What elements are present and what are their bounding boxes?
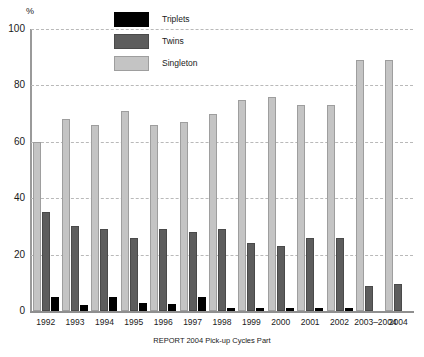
chart-legend: TripletsTwinsSingleton bbox=[114, 10, 244, 76]
y-axis-unit-label: % bbox=[26, 6, 34, 16]
x-tick-label-1997: 1997 bbox=[178, 317, 207, 327]
bar-group-2000 bbox=[268, 29, 294, 311]
y-tick-label-60: 60 bbox=[1, 137, 25, 147]
x-tick-label-1993: 1993 bbox=[60, 317, 89, 327]
x-tick-label-1995: 1995 bbox=[119, 317, 148, 327]
legend-item-twins[interactable]: Twins bbox=[114, 32, 244, 54]
x-tick-label-2004: 2004 bbox=[384, 317, 413, 327]
chart-caption: REPORT 2004 Pick-up Cycles Part bbox=[0, 336, 424, 345]
x-tick-label-2000: 2000 bbox=[266, 317, 295, 327]
bar-group-2004 bbox=[385, 29, 411, 311]
bar-twins-1998[interactable] bbox=[218, 229, 226, 311]
y-tick-label-40: 40 bbox=[1, 193, 25, 203]
x-axis-line bbox=[30, 311, 414, 313]
bar-group-1993 bbox=[62, 29, 88, 311]
legend-item-triplets[interactable]: Triplets bbox=[114, 10, 244, 32]
bar-triplets-1997[interactable] bbox=[198, 297, 206, 311]
bar-singleton-1998[interactable] bbox=[209, 114, 217, 311]
x-tick-label-1994: 1994 bbox=[90, 317, 119, 327]
bar-singleton-1997[interactable] bbox=[180, 122, 188, 311]
bar-singleton-1995[interactable] bbox=[121, 111, 129, 311]
bar-singleton-2003-2004[interactable] bbox=[356, 60, 364, 311]
legend-label-triplets: Triplets bbox=[162, 14, 190, 24]
legend-swatch-triplets bbox=[114, 12, 149, 27]
bar-twins-2003-2004[interactable] bbox=[365, 286, 373, 311]
y-axis-tick-labels: 020406080100 bbox=[0, 0, 25, 357]
x-tick-label-2003-2004: 2003–2004 bbox=[354, 317, 383, 327]
bar-twins-2002[interactable] bbox=[336, 238, 344, 311]
bar-singleton-1994[interactable] bbox=[91, 125, 99, 311]
bar-group-1992 bbox=[33, 29, 59, 311]
bar-twins-1997[interactable] bbox=[189, 232, 197, 311]
y-tick-label-0: 0 bbox=[1, 306, 25, 316]
y-tick-label-20: 20 bbox=[1, 250, 25, 260]
bar-singleton-1992[interactable] bbox=[33, 142, 41, 311]
bar-twins-1996[interactable] bbox=[159, 229, 167, 311]
bar-triplets-1996[interactable] bbox=[168, 304, 176, 311]
bar-twins-1994[interactable] bbox=[100, 229, 108, 311]
legend-label-twins: Twins bbox=[162, 36, 184, 46]
bar-triplets-1995[interactable] bbox=[139, 303, 147, 311]
bar-singleton-2004[interactable] bbox=[385, 60, 393, 311]
y-tick-label-80: 80 bbox=[1, 80, 25, 90]
x-tick-label-2002: 2002 bbox=[325, 317, 354, 327]
x-tick-label-1998: 1998 bbox=[207, 317, 236, 327]
legend-swatch-singleton bbox=[114, 56, 149, 71]
x-tick-label-2001: 2001 bbox=[295, 317, 324, 327]
bar-singleton-2001[interactable] bbox=[297, 105, 305, 311]
legend-item-singleton[interactable]: Singleton bbox=[114, 54, 244, 76]
x-tick-label-1999: 1999 bbox=[237, 317, 266, 327]
bar-twins-2001[interactable] bbox=[306, 238, 314, 311]
bar-chart: % 020406080100 1992199319941995199619971… bbox=[0, 0, 424, 357]
bar-twins-2004[interactable] bbox=[394, 284, 402, 311]
y-tick-label-100: 100 bbox=[1, 24, 25, 34]
bar-group-2001 bbox=[297, 29, 323, 311]
bar-singleton-1996[interactable] bbox=[150, 125, 158, 311]
bar-triplets-1994[interactable] bbox=[109, 297, 117, 311]
bar-singleton-2000[interactable] bbox=[268, 97, 276, 311]
bar-twins-1992[interactable] bbox=[42, 212, 50, 311]
bar-twins-2000[interactable] bbox=[277, 246, 285, 311]
legend-label-singleton: Singleton bbox=[162, 58, 197, 68]
bar-twins-1999[interactable] bbox=[247, 243, 255, 311]
x-tick-label-1996: 1996 bbox=[149, 317, 178, 327]
bar-singleton-2002[interactable] bbox=[327, 105, 335, 311]
x-tick-label-1992: 1992 bbox=[31, 317, 60, 327]
bar-twins-1995[interactable] bbox=[130, 238, 138, 311]
bar-singleton-1993[interactable] bbox=[62, 119, 70, 311]
bar-triplets-1992[interactable] bbox=[51, 297, 59, 311]
legend-swatch-twins bbox=[114, 34, 149, 49]
bar-singleton-1999[interactable] bbox=[238, 100, 246, 312]
bar-group-2003-2004 bbox=[356, 29, 382, 311]
bar-group-2002 bbox=[327, 29, 353, 311]
bar-twins-1993[interactable] bbox=[71, 226, 79, 311]
